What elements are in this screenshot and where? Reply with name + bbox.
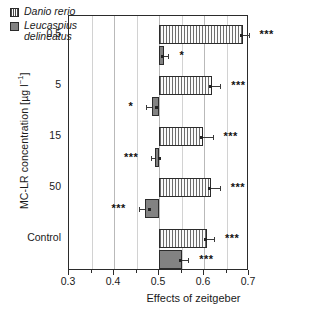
- y-axis-category-label: 50: [3, 180, 61, 192]
- x-axis-tick-label: 0.4: [93, 275, 133, 287]
- x-axis-tick-minor: [136, 270, 137, 273]
- error-bar-cap: [214, 237, 215, 242]
- error-bar: [207, 239, 214, 240]
- x-axis-tick-label: 0.7: [228, 275, 268, 287]
- x-axis-tick-label: 0.5: [138, 275, 178, 287]
- bar-danio-rerio: [159, 25, 243, 44]
- error-bar-cap: [220, 84, 221, 89]
- x-axis-tick-label: 0.3: [48, 275, 88, 287]
- error-bar: [203, 137, 213, 138]
- significance-stars: ***: [124, 152, 138, 163]
- significance-stars: ***: [231, 182, 245, 193]
- data-point-marker: [158, 157, 161, 160]
- gridline-minor: [137, 16, 138, 269]
- error-bar-cap: [188, 258, 189, 263]
- error-bar-cap: [146, 105, 147, 110]
- y-axis-category-label: Control: [3, 231, 61, 243]
- y-axis-category-label: 0.5: [3, 27, 61, 39]
- y-axis-title: MC-LR concentration [µg l−1]: [16, 26, 30, 256]
- error-bar-cap: [220, 186, 221, 191]
- legend-swatch-icon-danio-rerio: [10, 8, 19, 17]
- error-bar-cap: [168, 54, 169, 59]
- significance-stars: ***: [225, 233, 239, 244]
- data-point-marker: [240, 34, 243, 37]
- significance-stars: ***: [224, 131, 238, 142]
- legend-item-danio-rerio: Danio rerio: [10, 6, 77, 17]
- data-point-marker: [204, 238, 207, 241]
- significance-stars: *: [179, 50, 184, 61]
- error-bar-cap: [213, 135, 214, 140]
- bar-danio-rerio: [159, 76, 212, 95]
- bar-danio-rerio: [159, 178, 211, 197]
- x-axis-title: Effects of zeitgeber: [60, 292, 327, 304]
- data-point-marker: [179, 259, 182, 262]
- y-axis-category-label: 5: [3, 78, 61, 90]
- gridline-minor: [92, 16, 93, 269]
- plot-area: [68, 15, 248, 270]
- bar-danio-rerio: [159, 127, 203, 146]
- bar-danio-rerio: [159, 229, 207, 248]
- error-bar: [212, 86, 220, 87]
- significance-stars: *: [129, 101, 134, 112]
- data-point-marker: [208, 187, 211, 190]
- legend-label-danio-rerio: Danio rerio: [24, 6, 75, 17]
- x-axis-tick-minor: [91, 270, 92, 273]
- data-point-marker: [209, 85, 212, 88]
- error-bar: [211, 188, 220, 189]
- y-axis-category-label: 15: [3, 129, 61, 141]
- chart-figure: MC-LR concentration [µg l−1] Effects of …: [0, 0, 327, 324]
- x-axis-tick-minor: [226, 270, 227, 273]
- error-bar-cap: [151, 156, 152, 161]
- x-axis-tick-label: 0.6: [183, 275, 223, 287]
- significance-stars: ***: [260, 29, 274, 40]
- gridline-major: [114, 16, 115, 269]
- error-bar-cap: [249, 33, 250, 38]
- significance-stars: ***: [199, 254, 213, 265]
- data-point-marker: [161, 55, 164, 58]
- significance-stars: ***: [231, 80, 245, 91]
- error-bar-cap: [139, 207, 140, 212]
- significance-stars: ***: [111, 203, 125, 214]
- y-axis-title-bracket: ]: [18, 73, 30, 76]
- data-point-marker: [155, 106, 158, 109]
- chart-legend: Danio rerio Leucaspius delineatus: [10, 6, 77, 45]
- data-point-marker: [200, 136, 203, 139]
- data-point-marker: [148, 208, 151, 211]
- x-axis-tick-minor: [181, 270, 182, 273]
